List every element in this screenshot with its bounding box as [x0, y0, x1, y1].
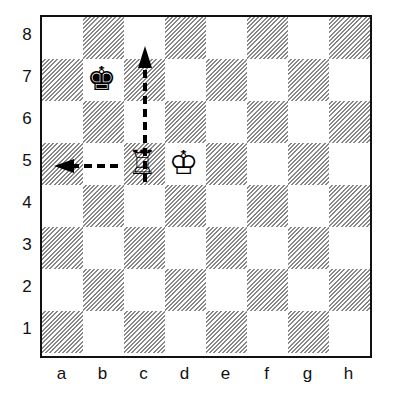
black-king-icon: ♚: [81, 57, 122, 99]
arrow-c5-a5: [54, 159, 118, 173]
white-rook-icon: ♖: [122, 141, 163, 183]
white-king-icon: ♔: [163, 141, 204, 183]
move-arrows: [0, 0, 393, 399]
